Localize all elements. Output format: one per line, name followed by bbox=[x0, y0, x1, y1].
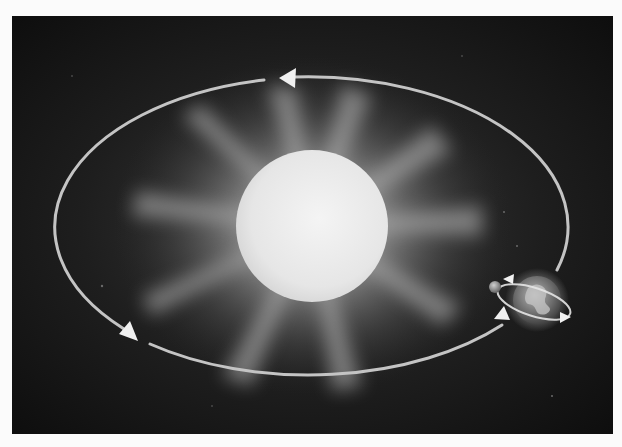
diagram-canvas: Earth orbiting the Sun bbox=[12, 16, 613, 434]
earth-sun-orbit-illustration bbox=[12, 16, 613, 434]
moon bbox=[489, 281, 501, 293]
sun bbox=[236, 150, 388, 302]
